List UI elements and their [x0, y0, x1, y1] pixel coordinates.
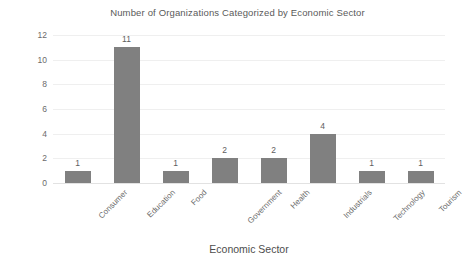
y-tick-label: 8 [42, 79, 47, 89]
chart-title: Number of Organizations Categorized by E… [0, 7, 475, 18]
bar-value-label: 2 [222, 145, 227, 155]
bar-value-label: 11 [122, 34, 131, 44]
bar-group[interactable]: 1 [347, 35, 396, 183]
x-tick-label: Government [245, 188, 282, 225]
bar-group[interactable]: 4 [298, 35, 347, 183]
bar-value-label: 1 [369, 158, 374, 168]
x-tick-label: Education [145, 188, 177, 220]
bar[interactable] [408, 171, 434, 183]
bar-value-label: 4 [320, 121, 325, 131]
x-tick-label: Consumer [96, 188, 128, 220]
x-tick-label: Tourism [437, 188, 463, 214]
bar[interactable] [114, 47, 140, 183]
y-tick-label: 6 [42, 104, 47, 114]
bar-group[interactable]: 1 [151, 35, 200, 183]
bar-chart: Number of Organizations Categorized by E… [0, 0, 475, 268]
x-tick-label: Food [189, 188, 208, 207]
bar-value-label: 2 [271, 145, 276, 155]
plot-area: 024681012111122411 [53, 35, 445, 183]
bar[interactable] [65, 171, 91, 183]
y-tick-label: 12 [38, 30, 47, 40]
bar[interactable] [261, 158, 287, 183]
x-tick-label: Technology [391, 188, 426, 223]
bar-group[interactable]: 2 [249, 35, 298, 183]
bar-group[interactable]: 1 [53, 35, 102, 183]
bar-group[interactable]: 1 [396, 35, 445, 183]
bar[interactable] [310, 134, 336, 183]
bar[interactable] [163, 171, 189, 183]
bar-group[interactable]: 11 [102, 35, 151, 183]
bar-value-label: 1 [173, 158, 178, 168]
y-tick-label: 2 [42, 153, 47, 163]
x-tick-label: Industrials [341, 188, 373, 220]
bar-value-label: 1 [75, 158, 80, 168]
gridline-0 [53, 183, 445, 184]
x-tick-label: Health [288, 188, 311, 211]
y-tick-label: 10 [38, 55, 47, 65]
x-axis-title: Economic Sector [53, 243, 445, 255]
y-tick-label: 4 [42, 129, 47, 139]
bar-value-label: 1 [418, 158, 423, 168]
bar[interactable] [359, 171, 385, 183]
bar[interactable] [212, 158, 238, 183]
y-tick-label: 0 [42, 178, 47, 188]
bar-group[interactable]: 2 [200, 35, 249, 183]
